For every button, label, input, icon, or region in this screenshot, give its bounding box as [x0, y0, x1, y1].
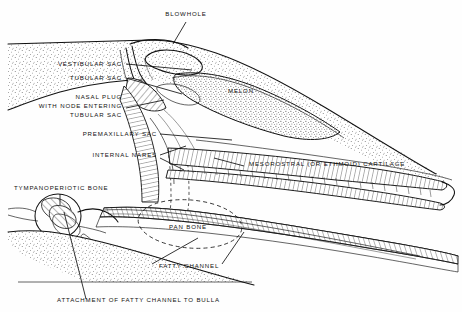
label-fatty-channel: FATTY CHANNEL [159, 262, 219, 269]
label-attachment-to-bulla: ATTACHMENT OF FATTY CHANNEL TO BULLA [57, 296, 220, 303]
label-pan-bone: PAN BONE [169, 223, 207, 230]
figure-canvas: BLOWHOLE VESTIBULAR SAC TUBULAR SAC NASA… [0, 0, 462, 312]
throat-contour-2 [8, 215, 38, 221]
throat-contour [8, 208, 36, 212]
label-mesorostral-cartilage: MESOROSTRAL (OR ETHMOID) CARTILAGE [249, 160, 405, 167]
body-wall [8, 231, 254, 285]
label-vestibular-sac: VESTIBULAR SAC [58, 60, 122, 67]
label-nasal-plug-line3: TUBULAR SAC [70, 111, 122, 118]
label-premaxillary-sac: PREMAXILLARY SAC [83, 130, 157, 137]
label-melon: MELON [228, 87, 254, 94]
label-nasal-plug-line2: WITH NODE ENTERING [39, 102, 122, 109]
label-blowhole: BLOWHOLE [165, 10, 206, 17]
label-tubular-sac: TUBULAR SAC [70, 74, 122, 81]
label-nasal-plug-line1: NASAL PLUG [75, 93, 122, 100]
label-internal-nares: INTERNAL NARES [93, 151, 158, 158]
mesorostral-cartilage [166, 140, 455, 210]
label-tympanoperiotic-bone: TYMPANOPERIOTIC BONE [14, 184, 108, 191]
anatomical-diagram: BLOWHOLE VESTIBULAR SAC TUBULAR SAC NASA… [0, 0, 462, 312]
